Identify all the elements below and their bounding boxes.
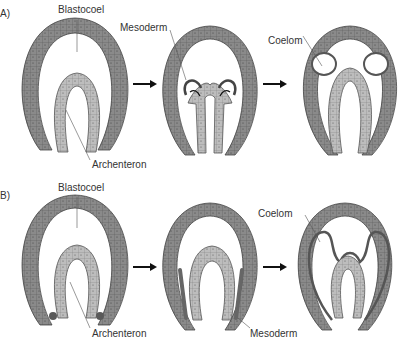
embryo-a1 [22,18,128,160]
embryo-a3 [303,26,397,155]
embryo-b1 [22,195,128,328]
label-archenteron-a: Archenteron [92,159,146,170]
arrow-icon [263,80,287,88]
panel-label-a: A) [0,8,10,19]
label-coelom-a: Coelom [268,35,302,46]
diagram-canvas [0,0,417,345]
label-blastocoel-b: Blastocoel [58,182,104,193]
arrow-icon [133,80,157,88]
arrow-icon [133,263,157,271]
embryo-b3 [298,203,392,330]
panel-label-b: B) [0,190,10,201]
label-archenteron-b: Archenteron [92,328,146,339]
arrow-icon [263,263,287,271]
embryo-a2 [163,26,257,155]
label-blastocoel-a: Blastocoel [58,4,104,15]
label-mesoderm-a: Mesoderm [120,22,167,33]
embryo-b2 [163,203,257,330]
label-mesoderm-b: Mesoderm [250,328,297,339]
label-coelom-b: Coelom [258,208,292,219]
